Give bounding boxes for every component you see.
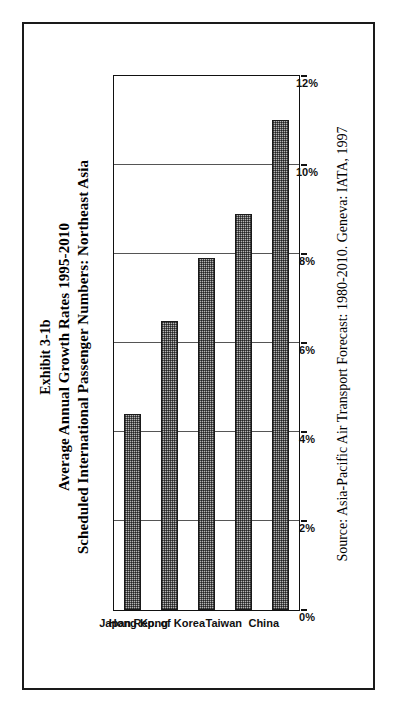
bar-taiwan (235, 214, 252, 610)
exhibit-rotated-wrapper: Exhibit 3-1b Average Annual Growth Rates… (35, 37, 365, 677)
gridline (114, 253, 299, 254)
scanned-page: Exhibit 3-1b Average Annual Growth Rates… (0, 0, 399, 714)
exhibit-title-block: Exhibit 3-1b Average Annual Growth Rates… (37, 37, 93, 677)
value-tick-label: 4% (284, 433, 330, 445)
value-tick-label: 12% (284, 77, 330, 89)
bar-rep-of-korea (198, 258, 215, 610)
value-tick-label: 6% (284, 344, 330, 356)
value-tick-label: 2% (284, 522, 330, 534)
category-label: China (158, 617, 278, 629)
exhibit-number: Exhibit 3-1b (37, 37, 55, 677)
exhibit-title: Average Annual Growth Rates 1995-2010 (54, 37, 73, 677)
value-tick-label: 10% (284, 166, 330, 178)
gridline (114, 164, 299, 165)
value-axis: 0%2%4%6%8%10%12% (301, 77, 323, 611)
bar-china (272, 121, 289, 611)
value-tick-label: 8% (284, 255, 330, 267)
exhibit-subtitle: Scheduled International Passenger Number… (74, 37, 93, 677)
bar-chart-plot-area (113, 75, 300, 611)
bar-hong-kong (161, 321, 178, 610)
source-note: Source: Asia-Pacific Air Transport Forec… (335, 77, 351, 611)
category-axis: JapanHong KongRep. of KoreaTaiwanChina (113, 613, 298, 677)
bar-japan (124, 414, 141, 610)
